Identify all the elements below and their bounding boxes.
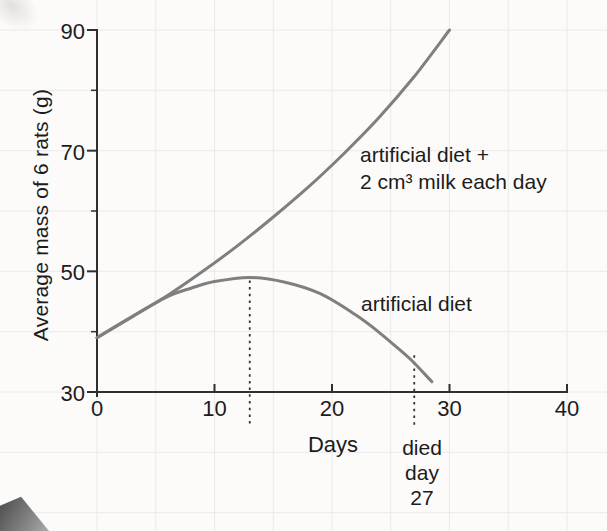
series-label-artificial-diet: artificial diet	[361, 290, 472, 317]
death-annotation-line2: day	[372, 460, 472, 485]
x-tick-label: 0	[72, 396, 122, 422]
death-annotation-line1: died	[372, 435, 472, 460]
y-tick-label: 90	[0, 19, 85, 45]
series-label-milk-diet-line1: artificial diet +	[360, 141, 547, 168]
series-label-milk-diet: artificial diet + 2 cm³ milk each day	[360, 141, 547, 195]
y-tick-label: 50	[0, 260, 85, 286]
y-tick-label: 70	[0, 140, 85, 166]
x-tick-label: 30	[425, 396, 475, 422]
death-annotation-line3: 27	[372, 485, 472, 510]
death-annotation: died day 27	[372, 435, 472, 510]
scanned-chart-page: Average mass of 6 rats (g) Days artifici…	[0, 0, 607, 531]
x-tick-label: 40	[542, 396, 592, 422]
x-axis-title: Days	[283, 432, 383, 458]
x-tick-label: 10	[190, 396, 240, 422]
x-tick-label: 20	[307, 396, 357, 422]
series-label-milk-diet-line2: 2 cm³ milk each day	[360, 168, 547, 195]
y-axis-title: Average mass of 6 rats (g)	[29, 35, 53, 395]
